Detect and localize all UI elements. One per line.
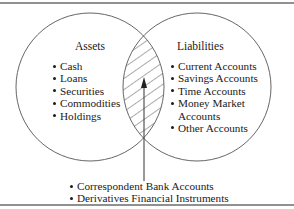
intersection-callout-list: Correspondent Bank Accounts Derivatives … xyxy=(70,180,229,205)
asset-item-label: Loans xyxy=(60,72,87,84)
asset-item-label: Commodities xyxy=(60,97,120,109)
assets-title: Assets xyxy=(75,40,105,53)
bullet-icon xyxy=(171,126,174,129)
list-item-continuation: Accounts xyxy=(171,110,258,122)
list-item: Correspondent Bank Accounts xyxy=(70,180,229,192)
venn-diagram-figure: Assets Cash Loans Securities Commodities… xyxy=(0,0,294,209)
assets-title-text: Assets xyxy=(75,40,105,52)
liability-item-label: Savings Accounts xyxy=(178,72,258,84)
bullet-icon xyxy=(53,102,56,105)
bullet-icon xyxy=(171,102,174,105)
bullet-icon xyxy=(53,65,56,68)
bullet-icon xyxy=(53,114,56,117)
list-item: Cash xyxy=(53,60,120,72)
list-item: Holdings xyxy=(53,110,120,122)
list-item: Savings Accounts xyxy=(171,72,258,84)
list-item: Loans xyxy=(53,72,120,84)
list-item: Current Accounts xyxy=(171,60,258,72)
liability-item-label: Time Accounts xyxy=(178,85,246,97)
asset-item-label: Holdings xyxy=(60,110,101,122)
liability-item-label: Current Accounts xyxy=(178,60,257,72)
liabilities-list: Current Accounts Savings Accounts Time A… xyxy=(171,60,258,134)
list-item: Commodities xyxy=(53,97,120,109)
intersection-item-label: Correspondent Bank Accounts xyxy=(77,180,214,192)
liability-item-label: Other Accounts xyxy=(178,122,248,134)
list-item: Securities xyxy=(53,85,120,97)
liability-item-label: Money Market xyxy=(178,97,245,109)
bullet-icon xyxy=(53,77,56,80)
intersection-item-label: Derivatives Financial Instruments xyxy=(77,192,229,204)
bullet-icon xyxy=(171,77,174,80)
liability-item-continuation: Accounts xyxy=(178,110,220,122)
bullet-icon xyxy=(53,89,56,92)
list-item: Time Accounts xyxy=(171,85,258,97)
bullet-icon xyxy=(70,197,73,200)
bullet-icon xyxy=(171,89,174,92)
asset-item-label: Cash xyxy=(60,60,82,72)
bullet-icon xyxy=(171,65,174,68)
list-item: Other Accounts xyxy=(171,122,258,134)
liabilities-title-text: Liabilities xyxy=(177,40,224,52)
liabilities-title: Liabilities xyxy=(177,40,224,53)
list-item: Derivatives Financial Instruments xyxy=(70,192,229,204)
asset-item-label: Securities xyxy=(60,85,104,97)
bullet-icon xyxy=(70,185,73,188)
assets-list: Cash Loans Securities Commodities Holdin… xyxy=(53,60,120,122)
list-item: Money Market xyxy=(171,97,258,109)
